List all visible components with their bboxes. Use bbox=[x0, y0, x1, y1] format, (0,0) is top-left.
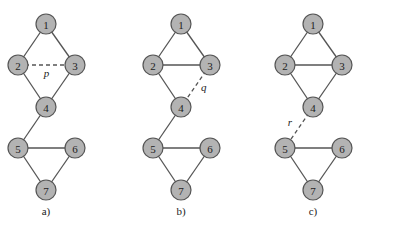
svg-text:2: 2 bbox=[150, 60, 156, 72]
svg-text:7: 7 bbox=[178, 185, 184, 197]
node-6: 6 bbox=[200, 138, 220, 158]
panel-label: a) bbox=[42, 205, 51, 218]
edge-label-p: p bbox=[43, 67, 50, 79]
svg-text:2: 2 bbox=[282, 60, 288, 72]
node-7: 7 bbox=[36, 180, 56, 200]
svg-text:7: 7 bbox=[310, 185, 316, 197]
svg-text:4: 4 bbox=[178, 102, 184, 114]
svg-text:1: 1 bbox=[43, 19, 49, 31]
node-2: 2 bbox=[8, 55, 28, 75]
svg-text:4: 4 bbox=[310, 102, 316, 114]
panel-label: c) bbox=[309, 205, 318, 218]
node-1: 1 bbox=[36, 14, 56, 34]
node-7: 7 bbox=[303, 180, 323, 200]
node-6: 6 bbox=[332, 138, 352, 158]
node-6: 6 bbox=[65, 138, 85, 158]
svg-text:6: 6 bbox=[207, 143, 213, 155]
node-5: 5 bbox=[275, 138, 295, 158]
node-3: 3 bbox=[200, 55, 220, 75]
graph-panel-0: p1234567a) bbox=[8, 14, 85, 218]
graph-panel-2: r1234567c) bbox=[275, 14, 352, 218]
node-3: 3 bbox=[332, 55, 352, 75]
svg-text:6: 6 bbox=[339, 143, 345, 155]
node-4: 4 bbox=[171, 97, 191, 117]
svg-text:1: 1 bbox=[310, 19, 316, 31]
svg-text:3: 3 bbox=[339, 60, 345, 72]
node-4: 4 bbox=[36, 97, 56, 117]
node-4: 4 bbox=[303, 97, 323, 117]
svg-text:3: 3 bbox=[207, 60, 213, 72]
node-5: 5 bbox=[8, 138, 28, 158]
node-2: 2 bbox=[143, 55, 163, 75]
node-1: 1 bbox=[171, 14, 191, 34]
node-5: 5 bbox=[143, 138, 163, 158]
edge-label-q: q bbox=[201, 81, 207, 93]
svg-text:3: 3 bbox=[72, 60, 78, 72]
graph-panel-1: q1234567b) bbox=[143, 14, 220, 218]
svg-text:4: 4 bbox=[43, 102, 49, 114]
svg-text:5: 5 bbox=[15, 143, 21, 155]
svg-text:7: 7 bbox=[43, 185, 49, 197]
svg-text:6: 6 bbox=[72, 143, 78, 155]
node-1: 1 bbox=[303, 14, 323, 34]
graph-diagram: p1234567a)q1234567b)r1234567c) bbox=[0, 0, 400, 227]
svg-text:5: 5 bbox=[282, 143, 288, 155]
node-7: 7 bbox=[171, 180, 191, 200]
edge-label-r: r bbox=[288, 116, 293, 128]
node-3: 3 bbox=[65, 55, 85, 75]
svg-text:2: 2 bbox=[15, 60, 21, 72]
node-2: 2 bbox=[275, 55, 295, 75]
svg-text:5: 5 bbox=[150, 143, 156, 155]
svg-text:1: 1 bbox=[178, 19, 184, 31]
panel-label: b) bbox=[176, 205, 186, 218]
